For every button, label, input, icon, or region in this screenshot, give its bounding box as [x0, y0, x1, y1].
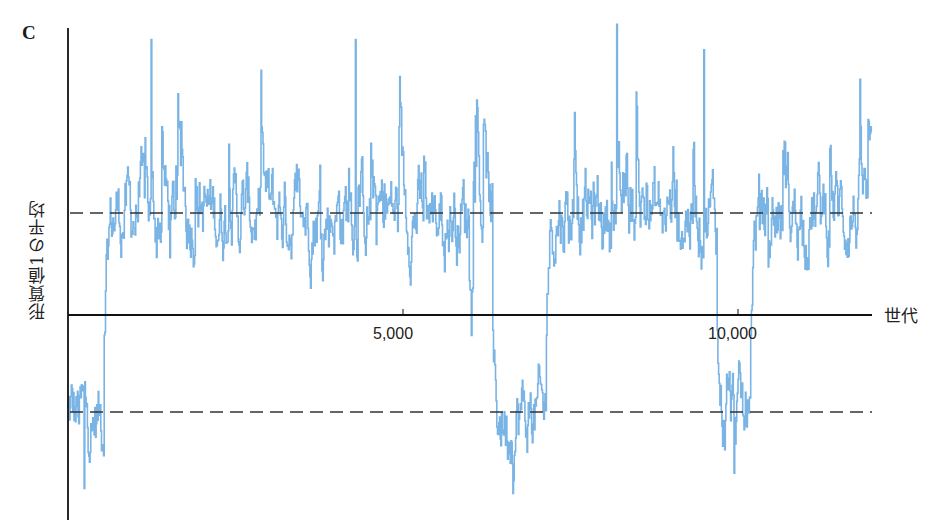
y-axis-label: 形質値1の平均	[24, 200, 46, 320]
trait-mean-trace	[68, 24, 872, 493]
x-axis-label: 世代	[884, 302, 918, 327]
trait-mean-series-line	[68, 24, 872, 493]
x-tick-label-5000: 5,000	[373, 325, 413, 343]
x-tick-label-10000: 10,000	[708, 325, 757, 343]
panel-label: C	[22, 22, 36, 44]
chart-plot-area	[0, 0, 944, 520]
